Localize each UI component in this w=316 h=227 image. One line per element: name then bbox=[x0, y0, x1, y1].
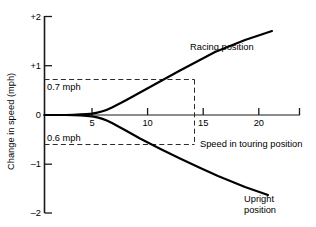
x-tick-label-20: 20 bbox=[254, 118, 264, 128]
racing-position-label: Racing position bbox=[190, 42, 254, 52]
y-tick-label-zero: 0 bbox=[36, 110, 41, 120]
y-tick-label-minus1: –1 bbox=[31, 159, 41, 169]
chart-background bbox=[0, 0, 316, 227]
x-tick-label-5: 5 bbox=[89, 118, 94, 128]
y-tick-label-minus2: –2 bbox=[31, 208, 41, 218]
x-axis-label: Speed in touring position bbox=[200, 139, 302, 149]
guide-label-upper: 0.7 mph bbox=[47, 82, 81, 92]
y-tick-label-plus2: +2 bbox=[30, 12, 41, 22]
x-tick-label-15: 15 bbox=[198, 118, 208, 128]
guide-label-lower: 0.6 mph bbox=[47, 133, 81, 143]
chart-container: +2 +1 0 –1 –2 5 10 15 20 Change in speed… bbox=[0, 0, 316, 227]
upright-position-label-line2: position bbox=[244, 205, 276, 215]
speed-change-chart: +2 +1 0 –1 –2 5 10 15 20 Change in speed… bbox=[0, 0, 316, 227]
upright-position-label-line1: Upright bbox=[244, 194, 274, 204]
x-tick-label-10: 10 bbox=[142, 118, 152, 128]
y-axis-label: Change in speed (mph) bbox=[6, 73, 16, 170]
y-tick-label-plus1: +1 bbox=[30, 61, 41, 71]
